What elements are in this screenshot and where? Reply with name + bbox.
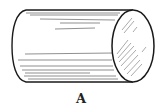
wood-grain-lines: [18, 13, 120, 79]
cylinder-end-face: [112, 10, 154, 82]
figure-label: A: [0, 91, 162, 106]
